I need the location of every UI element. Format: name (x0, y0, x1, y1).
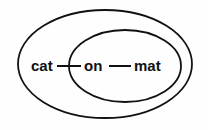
node-on: on (84, 57, 102, 74)
diagram-canvas: cat on mat (0, 0, 208, 130)
node-cat: cat (31, 57, 53, 74)
node-mat: mat (134, 57, 161, 74)
diagram-svg: cat on mat (0, 0, 208, 130)
